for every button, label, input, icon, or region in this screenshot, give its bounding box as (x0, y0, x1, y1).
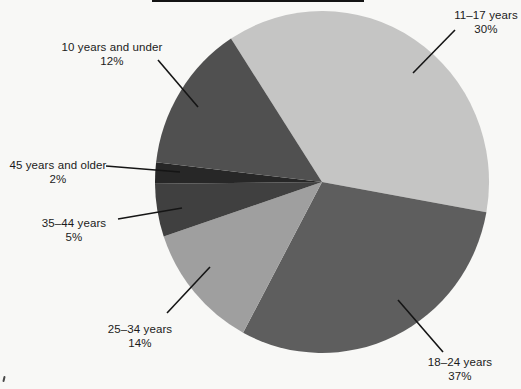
callout-10-years-and-under: 10 years and under12% (62, 40, 163, 68)
callout-percent-value: 2% (9, 172, 106, 186)
callout-45-years-and-older: 45 years and older2% (9, 158, 106, 186)
callout-18-24-years: 18–24 years37% (428, 355, 492, 383)
pie-chart-figure: 11–17 years30%18–24 years37%25–34 years1… (0, 0, 521, 389)
callout-category-label: 11–17 years (454, 8, 518, 22)
callout-category-label: 18–24 years (428, 355, 492, 369)
callout-11-17-years: 11–17 years30% (454, 8, 518, 36)
scan-artifact-line (152, 0, 364, 2)
callout-percent-value: 12% (62, 54, 163, 68)
callout-percent-value: 30% (454, 22, 518, 36)
callout-35-44-years: 35–44 years5% (42, 216, 106, 244)
callout-percent-value: 5% (42, 230, 106, 244)
callout-25-34-years: 25–34 years14% (108, 322, 172, 350)
callout-percent-value: 37% (428, 369, 492, 383)
callout-category-label: 10 years and under (62, 40, 163, 54)
callout-category-label: 45 years and older (9, 158, 106, 172)
callout-category-label: 35–44 years (42, 216, 106, 230)
callout-percent-value: 14% (108, 336, 172, 350)
callout-category-label: 25–34 years (108, 322, 172, 336)
